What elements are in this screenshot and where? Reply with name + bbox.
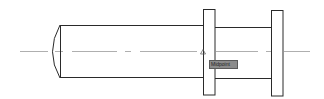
cad-drawing-canvas[interactable] (0, 0, 324, 99)
snap-tooltip: Midpoint (209, 60, 238, 69)
flange-2[interactable] (272, 11, 284, 97)
snap-tooltip-label: Midpoint (211, 61, 230, 67)
flange-1[interactable] (204, 10, 216, 96)
